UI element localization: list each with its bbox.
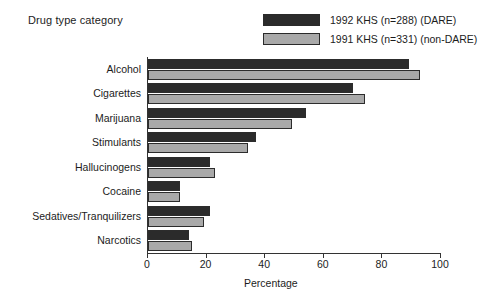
bar-dare bbox=[148, 108, 306, 118]
bar-group: Cocaine bbox=[148, 181, 441, 206]
category-label: Alcohol bbox=[107, 62, 141, 76]
bar-dare bbox=[148, 181, 180, 191]
x-tick-label: 0 bbox=[144, 258, 150, 270]
category-label: Sedatives/Tranquilizers bbox=[32, 209, 141, 223]
bar-dare bbox=[148, 83, 353, 93]
bar-group: Marijuana bbox=[148, 108, 441, 133]
bar-group: Stimulants bbox=[148, 132, 441, 157]
legend-label-non-dare: 1991 KHS (n=331) (non-DARE) bbox=[330, 33, 477, 45]
bar-non-dare bbox=[148, 217, 204, 227]
category-label: Hallucinogens bbox=[75, 160, 141, 174]
category-label: Cocaine bbox=[102, 184, 141, 198]
bar-non-dare bbox=[148, 168, 215, 178]
legend-item: 1992 KHS (n=288) (DARE) bbox=[263, 12, 477, 28]
bar-group: Narcotics bbox=[148, 230, 441, 255]
legend-item: 1991 KHS (n=331) (non-DARE) bbox=[263, 31, 477, 47]
bar-dare bbox=[148, 59, 409, 69]
page-title: Drug type category bbox=[28, 14, 123, 26]
plot-area: Alcohol Cigarettes Marijuana Stimulants … bbox=[147, 57, 440, 253]
category-label: Narcotics bbox=[97, 233, 141, 247]
bar-non-dare bbox=[148, 192, 180, 202]
bar-non-dare bbox=[148, 119, 292, 129]
legend-swatch-non-dare bbox=[263, 33, 320, 45]
bar-non-dare bbox=[148, 70, 420, 80]
chart-legend: 1992 KHS (n=288) (DARE) 1991 KHS (n=331)… bbox=[263, 12, 477, 50]
category-label: Cigarettes bbox=[93, 86, 141, 100]
x-tick-label: 20 bbox=[200, 258, 212, 270]
bar-dare bbox=[148, 157, 210, 167]
category-label: Marijuana bbox=[95, 111, 141, 125]
legend-swatch-dare bbox=[263, 14, 320, 26]
bar-group: Cigarettes bbox=[148, 83, 441, 108]
x-tick-label: 80 bbox=[376, 258, 388, 270]
legend-label-dare: 1992 KHS (n=288) (DARE) bbox=[330, 14, 456, 26]
bar-dare bbox=[148, 132, 256, 142]
x-tick-label: 40 bbox=[258, 258, 270, 270]
x-axis-title: Percentage bbox=[244, 277, 298, 289]
bar-group: Hallucinogens bbox=[148, 157, 441, 182]
bar-dare bbox=[148, 230, 189, 240]
category-label: Stimulants bbox=[92, 135, 141, 149]
bar-non-dare bbox=[148, 94, 365, 104]
x-tick-label: 100 bbox=[431, 258, 449, 270]
bar-non-dare bbox=[148, 241, 192, 251]
bar-non-dare bbox=[148, 143, 248, 153]
bar-dare bbox=[148, 206, 210, 216]
x-tick-label: 60 bbox=[317, 258, 329, 270]
bar-group: Alcohol bbox=[148, 59, 441, 84]
bar-group: Sedatives/Tranquilizers bbox=[148, 206, 441, 231]
